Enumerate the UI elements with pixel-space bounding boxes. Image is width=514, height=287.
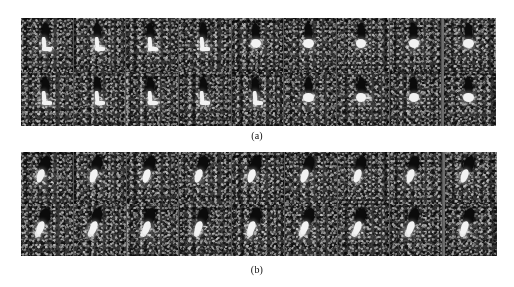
dark-head-feature	[357, 77, 365, 94]
image-tile	[21, 204, 74, 256]
image-tile	[179, 72, 232, 126]
bright-knot-feature	[251, 39, 261, 48]
bright-knot-feature	[303, 39, 313, 48]
panel-a-caption: (a)	[0, 130, 514, 141]
bright-knot-feature	[409, 93, 419, 102]
image-tile	[390, 18, 443, 72]
image-tile	[127, 204, 180, 256]
image-tile	[390, 72, 443, 126]
image-panel-a	[21, 18, 496, 126]
image-tile	[443, 204, 497, 256]
image-tile	[337, 72, 390, 126]
image-tile	[74, 72, 127, 126]
bright-foot-feature	[200, 101, 210, 105]
bright-foot-feature	[147, 101, 157, 105]
image-tile	[337, 18, 390, 72]
image-tile	[179, 152, 232, 204]
image-tile	[442, 18, 496, 72]
image-panel-b	[21, 152, 497, 256]
image-tile	[285, 204, 338, 256]
image-tile	[74, 152, 127, 204]
image-tile	[443, 152, 497, 204]
image-tile	[127, 152, 180, 204]
bright-foot-feature	[95, 47, 105, 51]
image-tile	[21, 152, 74, 204]
image-tile-row	[21, 152, 497, 204]
image-tile	[126, 72, 179, 126]
image-tile-row	[21, 18, 496, 72]
image-tile	[284, 18, 337, 72]
bright-foot-feature	[95, 101, 105, 105]
image-tile	[232, 72, 285, 126]
bright-foot-feature	[42, 47, 52, 51]
image-tile	[126, 18, 179, 72]
image-tile	[21, 72, 74, 126]
image-tile	[338, 152, 391, 204]
image-tile	[21, 18, 74, 72]
image-tile	[179, 204, 232, 256]
image-tile	[74, 204, 127, 256]
bright-knot-feature	[409, 39, 419, 48]
image-tile	[74, 18, 127, 72]
image-tile	[179, 18, 232, 72]
image-tile	[232, 152, 285, 204]
image-tile	[390, 152, 443, 204]
image-tile	[232, 204, 285, 256]
bright-foot-feature	[42, 101, 52, 105]
image-tile	[338, 204, 391, 256]
image-tile-row	[21, 204, 497, 256]
image-tile	[232, 18, 285, 72]
panel-b-caption: (b)	[0, 264, 514, 275]
bright-foot-feature	[200, 47, 210, 51]
image-tile	[284, 72, 337, 126]
figure-root: (a) (b)	[0, 0, 514, 287]
image-tile	[285, 152, 338, 204]
image-tile	[442, 72, 496, 126]
image-tile-row	[21, 72, 496, 126]
bright-foot-feature	[253, 101, 263, 105]
dark-head-feature	[357, 23, 365, 40]
bright-knot-feature	[463, 39, 473, 48]
bright-knot-feature	[303, 93, 313, 102]
image-tile	[390, 204, 443, 256]
bright-knot-feature	[356, 39, 366, 48]
bright-foot-feature	[147, 47, 157, 51]
bright-knot-feature	[463, 93, 473, 102]
